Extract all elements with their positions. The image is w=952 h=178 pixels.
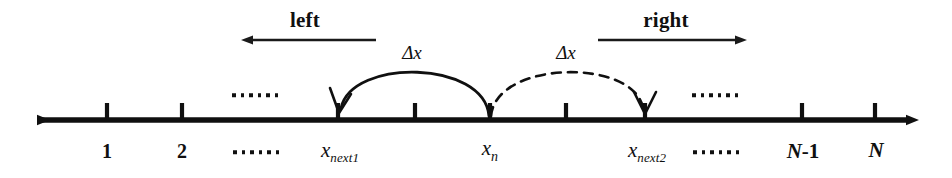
tick-label-x-next2: xnext2 xyxy=(628,140,666,164)
right-direction-label: right xyxy=(643,10,688,31)
tick-label-n-minus-1: N-1 xyxy=(787,141,820,162)
n-minus-1-italic-n: N xyxy=(787,139,802,163)
tick-label-N: N xyxy=(868,140,883,161)
tick-label-1: 1 xyxy=(102,141,112,161)
ellipsis-below-right xyxy=(693,150,739,154)
left-direction-label: left xyxy=(290,10,320,31)
x-next1-subscript: next1 xyxy=(330,150,359,165)
delta-x-left-label: Δx xyxy=(402,43,422,62)
x-next2-subscript: next2 xyxy=(637,150,666,165)
tick-label-x-n: xn xyxy=(482,138,498,164)
arc-right-move xyxy=(491,72,656,116)
ellipsis-above-right xyxy=(692,93,738,97)
tick-label-x-next1: xnext1 xyxy=(321,140,359,164)
x-n-subscript: n xyxy=(491,149,498,164)
x-next2-base: x xyxy=(628,138,637,162)
x-next1-base: x xyxy=(321,138,330,162)
ellipsis-below-left xyxy=(233,150,279,154)
arc-left-move xyxy=(330,72,489,116)
number-line-diagram: left right Δx Δx 1 2 xnext1 xn xnext2 N-… xyxy=(0,0,952,178)
delta-x-right-label: Δx xyxy=(556,43,576,62)
x-n-base: x xyxy=(482,136,491,160)
tick-label-2: 2 xyxy=(177,141,187,161)
ellipsis-above-left xyxy=(232,93,278,97)
n-minus-1-suffix: -1 xyxy=(802,139,820,163)
